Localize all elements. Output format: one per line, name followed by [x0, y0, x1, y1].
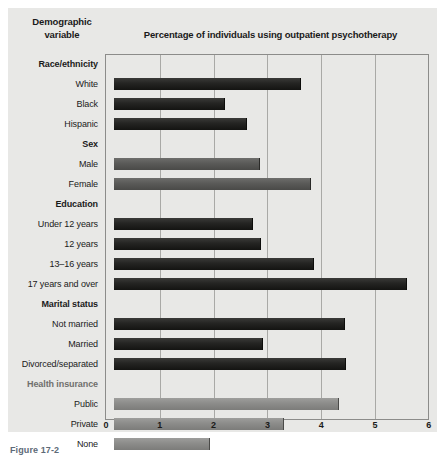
bar-row: Female: [8, 174, 437, 194]
category-label: Private: [8, 414, 98, 434]
bar-row: 12 years: [8, 234, 437, 254]
bar-row: Hispanic: [8, 114, 437, 134]
group-label: Marital status: [8, 294, 98, 314]
bar-track: [106, 74, 430, 94]
bar: [114, 178, 311, 190]
bar-row: 13–16 years: [8, 254, 437, 274]
category-label: Public: [8, 394, 98, 414]
group-label: Sex: [8, 134, 98, 154]
group-header-row: Race/ethnicity: [8, 54, 437, 74]
x-tick-label: 1: [150, 420, 170, 430]
bar: [114, 358, 346, 370]
bar-track: [106, 94, 430, 114]
demographic-variable-header: Demographic variable: [16, 16, 108, 41]
category-label: 13–16 years: [8, 254, 98, 274]
x-tick-label: 3: [257, 420, 277, 430]
bar-track: [106, 354, 430, 374]
bar-row: Not married: [8, 314, 437, 334]
bar: [114, 398, 339, 410]
bar-row: 17 years and over: [8, 274, 437, 294]
category-label: White: [8, 74, 98, 94]
x-tick-label: 5: [365, 420, 385, 430]
group-label: Health insurance: [8, 374, 98, 394]
group-header-row: Marital status: [8, 294, 437, 314]
bar: [114, 258, 314, 270]
chart-title: Percentage of individuals using outpatie…: [108, 29, 433, 40]
bar-track: [106, 274, 430, 294]
bar-row: Married: [8, 334, 437, 354]
bar-track: [106, 154, 430, 174]
x-tick-label: 0: [96, 420, 116, 430]
chart-header: Demographic variable Percentage of indiv…: [8, 16, 437, 54]
group-header-row: Sex: [8, 134, 437, 154]
bar: [114, 438, 210, 450]
bar: [114, 118, 247, 130]
bar: [114, 78, 301, 90]
figure-caption: Figure 17-2: [10, 445, 59, 455]
bar-track: [106, 334, 430, 354]
group-header-row: Health insurance: [8, 374, 437, 394]
category-label: Black: [8, 94, 98, 114]
x-tick-label: 6: [419, 420, 439, 430]
bar: [114, 318, 345, 330]
bar: [114, 278, 407, 290]
bar-row: Divorced/separated: [8, 354, 437, 374]
category-label: Hispanic: [8, 114, 98, 134]
category-label: Married: [8, 334, 98, 354]
category-label: Not married: [8, 314, 98, 334]
x-axis: 0123456: [105, 420, 429, 436]
bar-track: [106, 214, 430, 234]
category-label: Divorced/separated: [8, 354, 98, 374]
category-label: Male: [8, 154, 98, 174]
bar-track: [106, 114, 430, 134]
bar: [114, 338, 263, 350]
x-tick-label: 4: [311, 420, 331, 430]
bar-row: Public: [8, 394, 437, 414]
bar-track: [106, 254, 430, 274]
bar-row: None: [8, 434, 437, 454]
group-label: Race/ethnicity: [8, 54, 98, 74]
figure-panel: Demographic variable Percentage of indiv…: [8, 8, 437, 432]
bar-track: [106, 234, 430, 254]
bar-row: White: [8, 74, 437, 94]
demographic-variable-header-line2: variable: [16, 29, 108, 42]
bar: [114, 218, 253, 230]
bar-track: [106, 394, 430, 414]
bar-row: Black: [8, 94, 437, 114]
group-header-row: Education: [8, 194, 437, 214]
category-label: Female: [8, 174, 98, 194]
bar: [114, 98, 225, 110]
category-label: Under 12 years: [8, 214, 98, 234]
bar: [114, 158, 260, 170]
bar-track: [106, 314, 430, 334]
category-label: 17 years and over: [8, 274, 98, 294]
bar-rows: Race/ethnicityWhiteBlackHispanicSexMaleF…: [8, 54, 437, 420]
bar-track: [106, 174, 430, 194]
bar: [114, 238, 261, 250]
group-label: Education: [8, 194, 98, 214]
category-label: 12 years: [8, 234, 98, 254]
bar-row: Male: [8, 154, 437, 174]
demographic-variable-header-line1: Demographic: [16, 16, 108, 29]
x-tick-label: 2: [204, 420, 224, 430]
bar-track: [106, 434, 430, 454]
bar-row: Under 12 years: [8, 214, 437, 234]
